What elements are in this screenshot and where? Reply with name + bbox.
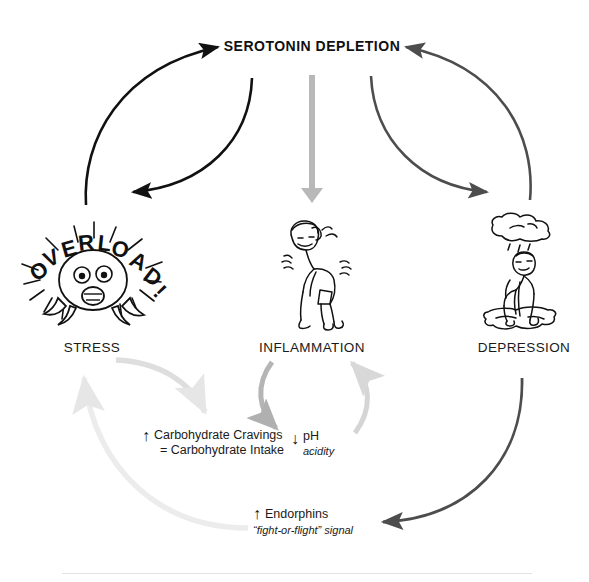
- edge-serotonin-to-stress: [133, 78, 252, 192]
- node-label-stress: STRESS: [64, 340, 120, 355]
- node-label-depression: DEPRESSION: [478, 340, 571, 355]
- edge-stress-to-serotonin: [86, 47, 218, 205]
- endorphins-sub-label: “fight-or-flight” signal: [253, 523, 353, 537]
- down-arrow-icon: ↓: [291, 432, 299, 445]
- footer-divider: [62, 573, 532, 574]
- ph-label: pH: [303, 429, 334, 444]
- node-label-inflammation: INFLAMMATION: [259, 340, 365, 355]
- edge-ph-to-inflammation: [352, 363, 367, 433]
- edge-serotonin-to-depression: [371, 76, 487, 192]
- edge-depression-to-endorphins: [383, 378, 522, 522]
- edge-serotonin-to-inflammation-head: [301, 188, 323, 203]
- edge-inflammation-to-ph: [261, 362, 276, 428]
- serotonin-depletion-cycle-diagram: O V E R L O A D !: [0, 0, 589, 582]
- svg-text:R: R: [77, 229, 96, 256]
- edge-depression-to-serotonin: [406, 47, 531, 200]
- page-title: SEROTONIN DEPLETION: [224, 38, 400, 54]
- hunched-person-icon: [268, 216, 360, 334]
- rain-cloud-person-icon: [480, 212, 572, 334]
- svg-text:O: O: [109, 235, 132, 264]
- annotation-ph: ↓ pH acidity: [291, 429, 334, 458]
- edge-stress-to-carbohydrate: [116, 360, 205, 412]
- ellipsis-separator: ···: [262, 443, 279, 457]
- annotation-endorphins: ↑ Endorphins “fight-or-flight” signal: [253, 504, 353, 537]
- up-arrow-icon: ↑: [142, 429, 150, 442]
- endorphins-label: Endorphins: [265, 507, 328, 522]
- svg-text:E: E: [58, 235, 79, 263]
- carbohydrate-cravings-text: Carbohydrate Cravings: [154, 428, 283, 443]
- ph-sub-label: acidity: [303, 444, 334, 458]
- overload-head-icon: O V E R L O A D !: [18, 218, 168, 328]
- up-arrow-icon-endorphins: ↑: [253, 507, 261, 520]
